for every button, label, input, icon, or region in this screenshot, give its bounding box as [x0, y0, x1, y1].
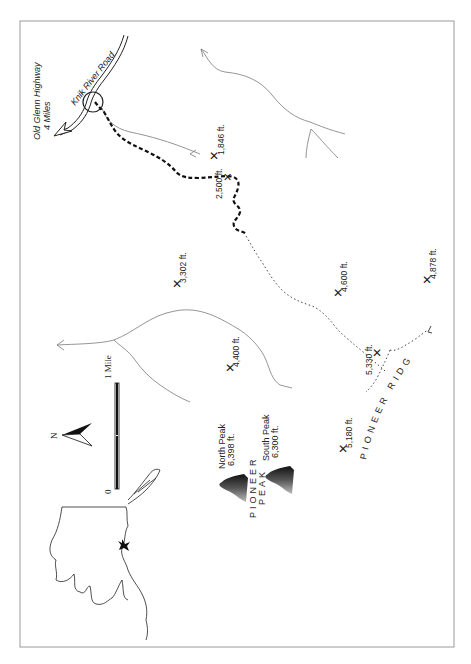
locator-outline — [50, 507, 148, 640]
elevation-3302: ✕ 3,302 ft. — [172, 252, 188, 291]
elevation-label: 2,500 ft. — [214, 168, 224, 199]
stream-west-branch — [114, 340, 190, 402]
ridge-label: PIONEER RIDGE — [0, 0, 415, 460]
summit-x-icon: ✕ — [223, 171, 232, 183]
elevation-5180: ✕ 5,180 ft. — [338, 417, 354, 456]
elevation-label: 5,180 ft. — [344, 417, 354, 448]
ridge-spur-north — [390, 330, 428, 350]
map-border — [20, 21, 454, 647]
stream-fork-a — [306, 129, 311, 158]
stream-lower — [102, 108, 200, 154]
north-arrow: N — [49, 423, 92, 446]
elevation-2500: ✕ 2,500 ft. — [214, 168, 232, 199]
scale-zero-label: 0 — [103, 489, 113, 494]
north-arrow-icon — [62, 423, 92, 435]
elevation-label: 3,302 ft. — [178, 252, 188, 283]
scale-one-mile-label: 1 Mile — [103, 355, 113, 379]
locator-aleutian — [128, 469, 160, 504]
elevation-1846: ✕ 1,846 ft. — [209, 124, 226, 163]
elevation-label: 1,846 ft. — [216, 124, 226, 155]
highway-arrow-icon — [54, 122, 72, 136]
mountain-icon — [219, 474, 248, 502]
elevation-4878: ✕ 4,878 ft. — [422, 248, 438, 287]
highway-distance-label: 4 Miles — [42, 101, 52, 130]
ridge-end-mark — [428, 326, 432, 333]
elevation-4400: ✕ 4,400 ft. — [225, 336, 241, 375]
massif-label-line2: PEAK — [257, 469, 267, 505]
highway-label: Old Glenn Highway — [32, 62, 42, 140]
stream-fork-b — [311, 129, 338, 158]
north-peak: North Peak 6,398 ft. — [217, 423, 248, 502]
stream-upper — [201, 49, 345, 134]
mountain-icon — [265, 466, 294, 494]
trail-map: Old Glenn Highway 4 Miles Knik River Roa… — [0, 0, 471, 664]
north-label: N — [49, 432, 59, 439]
elevation-label: 5,330 ft. — [364, 344, 374, 375]
north-peak-elevation: 6,398 ft. — [226, 433, 236, 466]
stream-west — [57, 310, 292, 388]
elevation-label: 4,600 ft. — [339, 261, 349, 292]
elevation-5330: ✕ 5,330 ft. — [364, 344, 382, 375]
scale-bar: 0 1 Mile — [103, 355, 119, 494]
elevation-label: 4,878 ft. — [428, 248, 438, 279]
south-peak-elevation: 6,300 ft. — [270, 425, 280, 458]
elevation-label: 4,400 ft. — [231, 336, 241, 367]
streams — [57, 49, 345, 402]
main-trail — [95, 102, 246, 234]
elevation-4600: ✕ 4,600 ft. — [333, 261, 349, 300]
